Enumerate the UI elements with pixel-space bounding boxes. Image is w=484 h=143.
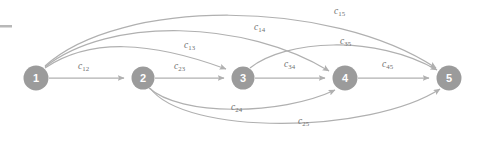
node-3-label: 3 <box>240 72 246 84</box>
node-4[interactable]: 4 <box>333 66 358 91</box>
edge-label-c34: c34 <box>284 60 295 70</box>
crop-dash-artifact <box>0 25 12 28</box>
edge-label-c24: c24 <box>231 103 242 113</box>
edge-label-c25: c25 <box>298 117 309 127</box>
edge-label-c45: c45 <box>382 60 393 70</box>
node-1[interactable]: 1 <box>24 66 49 91</box>
node-5[interactable]: 5 <box>437 66 462 91</box>
edge-label-c35: c35 <box>340 37 351 47</box>
edge-label-c15: c15 <box>334 7 345 17</box>
graph-diagram: 1 2 3 4 5 c12 c23 c34 c45 c13 c14 c15 c3… <box>0 0 484 143</box>
node-4-label: 4 <box>342 72 349 84</box>
edge-1-5 <box>45 15 436 68</box>
node-2-label: 2 <box>140 72 146 84</box>
node-1-label: 1 <box>33 72 39 84</box>
edge-label-c23: c23 <box>174 62 185 72</box>
node-3[interactable]: 3 <box>232 67 255 90</box>
edge-label-c13: c13 <box>184 41 195 51</box>
node-2[interactable]: 2 <box>132 67 155 90</box>
edge-label-c12: c12 <box>78 62 89 72</box>
graph-canvas: 1 2 3 4 5 <box>0 0 484 143</box>
edge-label-c14: c14 <box>254 23 265 33</box>
node-5-label: 5 <box>446 72 452 84</box>
